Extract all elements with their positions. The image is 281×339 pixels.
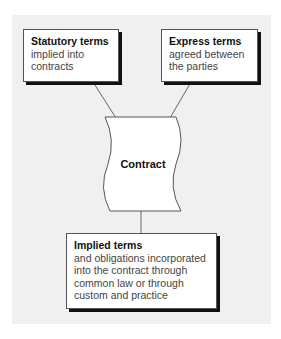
statutory-terms-body: implied into contracts	[31, 48, 111, 73]
express-terms-box: Express terms agreed between the parties	[161, 29, 258, 82]
implied-terms-body: and obligations incorporated into the co…	[74, 252, 209, 302]
edge-express-contract	[170, 82, 191, 118]
statutory-terms-box: Statutory terms implied into contracts	[23, 29, 119, 82]
contract-label: Contract	[105, 117, 181, 211]
express-terms-body: agreed between the parties	[169, 48, 250, 73]
express-terms-title: Express terms	[169, 35, 250, 48]
statutory-terms-title: Statutory terms	[31, 35, 111, 48]
edge-statutory-contract	[93, 82, 116, 118]
implied-terms-title: Implied terms	[74, 239, 209, 252]
implied-terms-box: Implied terms and obligations incorporat…	[66, 233, 217, 309]
